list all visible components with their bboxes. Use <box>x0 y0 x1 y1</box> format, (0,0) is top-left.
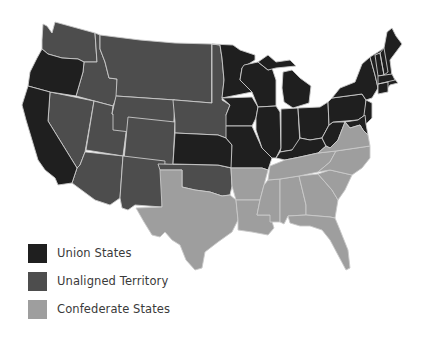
unaligned-swatch <box>28 272 47 291</box>
state-florida <box>288 215 350 270</box>
legend-item-unaligned: Unaligned Territory <box>28 271 170 291</box>
state-new-york <box>332 57 378 100</box>
legend-label: Union States <box>57 246 132 260</box>
legend: Union States Unaligned Territory Confede… <box>28 243 170 327</box>
confederate-swatch <box>28 300 47 319</box>
state-iowa <box>222 97 258 126</box>
legend-label: Unaligned Territory <box>57 274 168 288</box>
union-swatch <box>28 244 47 263</box>
state-montana <box>100 35 212 103</box>
legend-item-confederate: Confederate States <box>28 299 170 319</box>
legend-label: Confederate States <box>57 302 170 316</box>
legend-item-union: Union States <box>28 243 170 263</box>
state-kansas <box>173 133 232 168</box>
